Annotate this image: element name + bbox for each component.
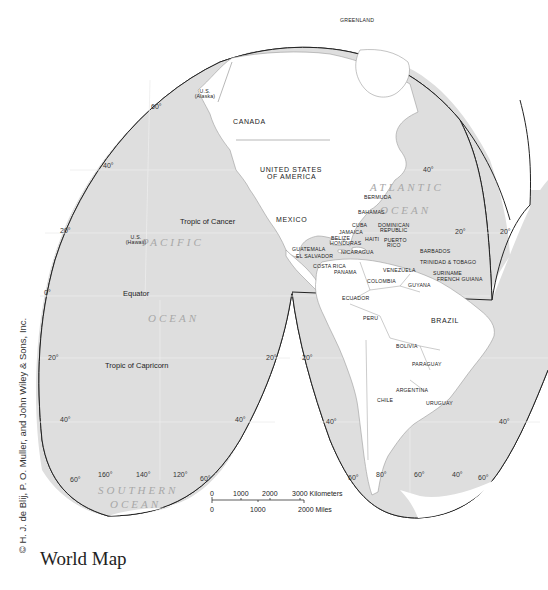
lat-20s-mid-left: 20° bbox=[266, 354, 277, 361]
scale-mi-1000: 1000 bbox=[250, 506, 266, 513]
lat-20s-mid-right: 20° bbox=[302, 354, 313, 361]
ocean-label-atlantic: ATLANTIC bbox=[369, 181, 444, 193]
lat-60s-mid-right: 60° bbox=[348, 474, 359, 481]
label-argentina: ARGENTINA bbox=[396, 387, 428, 393]
label-barbados: BARBADOS bbox=[420, 248, 451, 254]
ocean-label-southern: SOUTHERN bbox=[98, 484, 178, 496]
world-map: PACIFIC OCEAN ATLANTIC OCEAN SOUTHERN OC… bbox=[0, 0, 548, 590]
scale-km-2000: 2000 bbox=[262, 490, 278, 497]
ocean-label-atlantic-2: OCEAN bbox=[380, 204, 431, 216]
lat-40s-mid-left: 40° bbox=[235, 416, 246, 423]
lat-40s-mid-right: 40° bbox=[326, 418, 337, 425]
label-mexico: MEXICO bbox=[276, 216, 307, 223]
label-guyana: GUYANA bbox=[408, 282, 431, 288]
label-usa-sub: OF AMERICA bbox=[267, 173, 316, 180]
map-caption: World Map bbox=[40, 548, 127, 570]
ocean-label-southern-2: OCEAN bbox=[110, 498, 161, 510]
lat-20s-left: 20° bbox=[48, 354, 59, 361]
label-greenland: GREENLAND bbox=[340, 17, 374, 23]
lon-120w: 120° bbox=[173, 471, 188, 478]
lon-160w: 160° bbox=[98, 471, 113, 478]
label-haiti: HAITI bbox=[365, 236, 379, 242]
label-colombia: COLOMBIA bbox=[367, 278, 396, 284]
lat-40s-left: 40° bbox=[60, 416, 71, 423]
label-french-guiana: FRENCH GUIANA bbox=[437, 276, 483, 282]
label-puerto-rico-sub: RICO bbox=[387, 242, 401, 248]
label-nicaragua: NICARAGUA bbox=[341, 249, 374, 255]
lat-60n-left: 60° bbox=[151, 103, 162, 110]
scale-bar: 0 1000 2000 3000 Kilometers 0 1000 2000 … bbox=[210, 490, 343, 513]
lat-60s-left: 60° bbox=[70, 476, 81, 483]
lat-20n-far-right: 20° bbox=[500, 228, 511, 235]
scale-km-0: 0 bbox=[210, 490, 214, 497]
scale-mi-0: 0 bbox=[210, 506, 214, 513]
label-tropic-of-capricorn: Tropic of Capricorn bbox=[105, 361, 169, 370]
lon-140w: 140° bbox=[136, 471, 151, 478]
label-el-salvador: EL SALVADOR bbox=[296, 253, 333, 259]
label-guatemala: GUATEMALA bbox=[292, 246, 326, 252]
label-tropic-of-cancer: Tropic of Cancer bbox=[180, 217, 236, 226]
label-bahamas: BAHAMAS bbox=[358, 209, 385, 215]
label-usa: UNITED STATES bbox=[260, 166, 322, 173]
label-peru: PERU bbox=[363, 315, 378, 321]
lon-60w: 60° bbox=[414, 471, 425, 478]
label-honduras: HONDURAS bbox=[330, 240, 362, 246]
label-canada: CANADA bbox=[233, 118, 266, 125]
copyright-credit: © H. J. de Blij, P. O. Muller, and John … bbox=[17, 306, 28, 566]
scale-km-1000: 1000 bbox=[233, 490, 249, 497]
label-bermuda: BERMUDA bbox=[364, 194, 392, 200]
label-trinidad-tobago: TRINIDAD & TOBAGO bbox=[420, 259, 476, 265]
label-paraguay: PARAGUAY bbox=[412, 361, 442, 367]
label-brazil: BRAZIL bbox=[431, 317, 459, 324]
lat-20n-left: 20° bbox=[60, 227, 71, 234]
label-us-hawaii-sub: (Hawaii) bbox=[126, 239, 147, 245]
label-ecuador: ECUADOR bbox=[342, 295, 369, 301]
scale-km-3000: 3000 Kilometers bbox=[292, 490, 343, 497]
label-panama: PANAMA bbox=[334, 269, 357, 275]
label-chile: CHILE bbox=[377, 397, 394, 403]
label-cuba: CUBA bbox=[352, 222, 368, 228]
lat-60s-right: 60° bbox=[478, 474, 489, 481]
lon-40w: 40° bbox=[452, 471, 463, 478]
label-dominican-republic-sub: REPUBLIC bbox=[380, 227, 408, 233]
ocean-label-pacific-2: OCEAN bbox=[148, 312, 199, 324]
label-equator: Equator bbox=[123, 289, 150, 298]
lat-40n-right: 40° bbox=[423, 166, 434, 173]
ocean-label-pacific: PACIFIC bbox=[141, 236, 204, 248]
lon-80w: 80° bbox=[376, 471, 387, 478]
lat-equator-left: 0° bbox=[44, 289, 51, 296]
lat-60s-mid-left: 60° bbox=[200, 475, 211, 482]
scale-mi-2000: 2000 Miles bbox=[298, 506, 332, 513]
label-uruguay: URUGUAY bbox=[426, 400, 453, 406]
label-venezuela: VENEZUELA bbox=[383, 267, 416, 273]
lat-40s-right: 40° bbox=[499, 418, 510, 425]
label-bolivia: BOLIVIA bbox=[396, 343, 418, 349]
lat-40n-left: 40° bbox=[103, 162, 114, 169]
lat-20n-right: 20° bbox=[455, 228, 466, 235]
label-us-alaska-sub: (Alaska) bbox=[195, 93, 216, 99]
